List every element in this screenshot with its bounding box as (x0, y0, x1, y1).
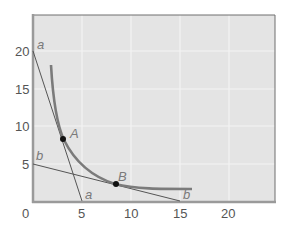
x-tick-5: 5 (78, 206, 85, 221)
line-a-label-top: a (37, 37, 44, 52)
line-b-label-right: b (183, 187, 190, 202)
y-tick-10: 10 (15, 119, 29, 134)
y-tick-5: 5 (22, 157, 29, 172)
point-a-label: A (69, 126, 79, 141)
y-tick-15: 15 (15, 82, 29, 97)
chart: A B a a b b 0 5 10 15 20 20 15 10 5 (0, 0, 290, 230)
x-tick-20: 20 (221, 206, 235, 221)
x-tick-15: 15 (173, 206, 187, 221)
line-b-label-left: b (36, 148, 43, 163)
y-tick-20: 20 (15, 44, 29, 59)
x-tick-10: 10 (124, 206, 138, 221)
line-a-label-bottom: a (85, 187, 92, 202)
point-b-label: B (118, 169, 127, 184)
point-a-marker (60, 136, 66, 142)
x-tick-0: 0 (22, 206, 29, 221)
plot-area (33, 15, 275, 202)
